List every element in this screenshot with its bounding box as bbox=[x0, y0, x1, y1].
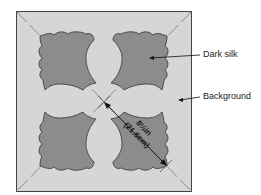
label-dark-silk: Dark silk bbox=[203, 49, 238, 59]
label-background: Background bbox=[203, 91, 251, 101]
